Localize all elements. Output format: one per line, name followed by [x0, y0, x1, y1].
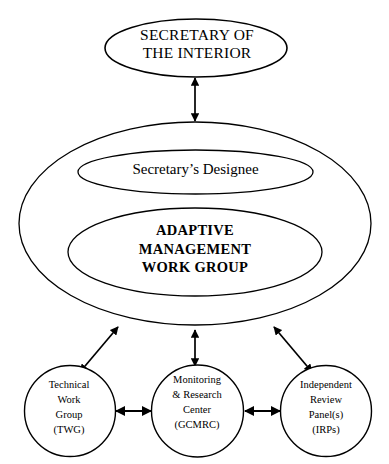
node-secretary-ellipse[interactable] — [105, 19, 287, 77]
diagram-canvas — [0, 0, 389, 464]
node-designee-ellipse[interactable] — [78, 150, 313, 194]
organization-diagram: SECRETARY OF THE INTERIOR Secretary’s De… — [0, 0, 389, 464]
node-irps-circle[interactable] — [281, 366, 372, 457]
node-twg-circle[interactable] — [25, 366, 116, 457]
connector-container-to-twg — [80, 327, 118, 372]
connector-container-to-irps — [274, 327, 312, 372]
node-gcmrc-circle[interactable] — [152, 365, 244, 457]
node-amwg-ellipse[interactable] — [68, 208, 322, 296]
